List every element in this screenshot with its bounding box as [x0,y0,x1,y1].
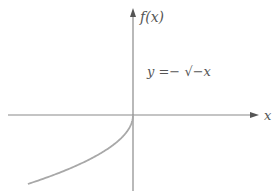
equation-text: y =− √−x [146,64,212,79]
y-axis-arrow-icon [130,8,136,17]
function-curve [28,115,133,184]
function-plot: f(x) x y =− √−x [0,0,278,193]
x-axis-label: x [264,108,272,123]
equation-label: y =− √−x [146,64,212,79]
x-axis-arrow-icon [250,112,259,118]
y-axis-label: f(x) [139,9,164,25]
